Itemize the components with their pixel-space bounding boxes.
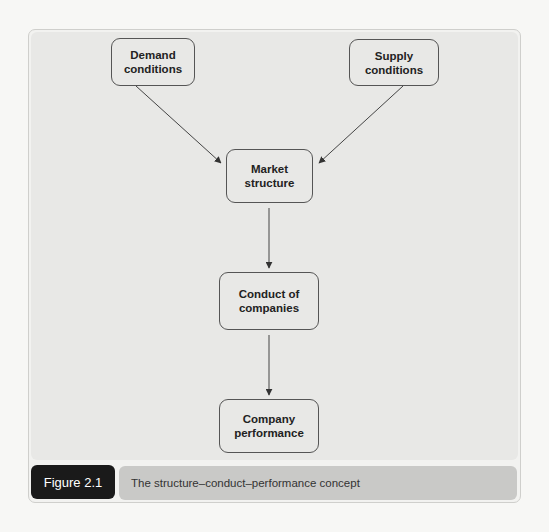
node-conduct-of-companies: Conduct of companies (219, 272, 319, 330)
node-company-performance: Company performance (219, 399, 319, 453)
node-demand-conditions: Demand conditions (111, 38, 195, 86)
node-market-structure: Market structure (226, 149, 313, 203)
node-supply-conditions: Supply conditions (349, 39, 439, 86)
diagram-area (31, 32, 518, 460)
figure-caption: The structure–conduct–performance concep… (119, 466, 517, 500)
figure-number-label: Figure 2.1 (31, 465, 115, 499)
